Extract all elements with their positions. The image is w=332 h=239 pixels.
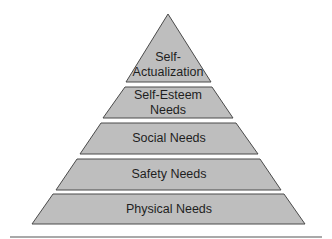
tier-safety-label: Safety Needs	[131, 167, 206, 182]
tier-self-esteem-label: Self-Esteem Needs	[134, 88, 202, 118]
tier-social-label: Social Needs	[132, 131, 206, 146]
tier-physical-label: Physical Needs	[126, 202, 212, 217]
needs-pyramid-diagram: Self- Actualization Self-Esteem Needs So…	[0, 0, 332, 239]
tier-self-actualization-label: Self- Actualization	[133, 50, 204, 80]
